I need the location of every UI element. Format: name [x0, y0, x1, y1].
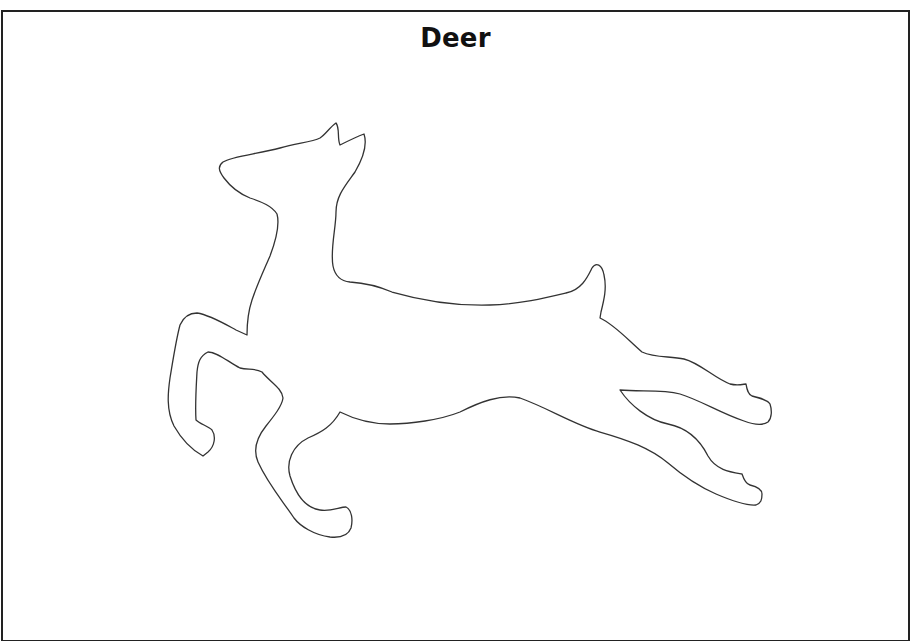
deer-outline-icon — [168, 123, 771, 537]
deer-outline-figure — [0, 0, 916, 644]
